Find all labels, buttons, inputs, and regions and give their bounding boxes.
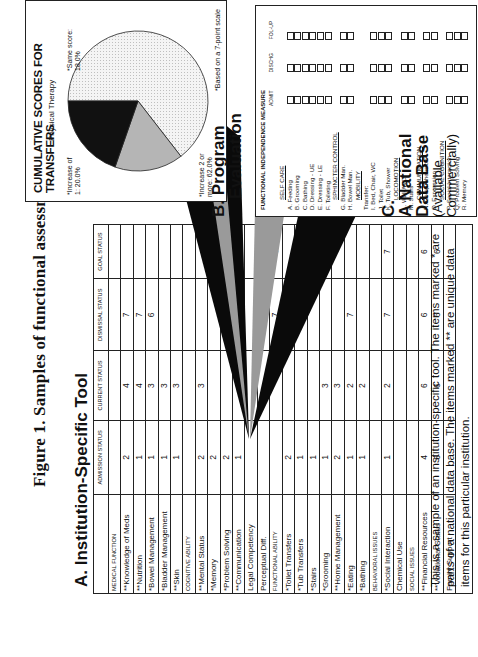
fim-score-box [401,64,408,72]
fim-score-box [302,32,309,40]
fim-item-label: I. Bed, Chair, WC [369,162,376,210]
cell-value: 4 [121,351,133,420]
cell-value [245,351,257,420]
fim-score-box [302,96,309,104]
cell-value [233,351,245,420]
fim-score-box [385,32,392,40]
fim-score-box [325,64,332,72]
fim-score-box [347,32,354,40]
cell-value [133,225,145,279]
pie-footnote: *Based on a 7-point scale [213,9,222,91]
fim-score-box [385,96,392,104]
cell-value [220,279,232,351]
cell-value: 3 [171,351,183,420]
fim-score-box [431,32,438,40]
fim-score-box [294,32,301,40]
table-row: FUNCTIONAL ABILITY76 [270,225,282,594]
column-header: ADMISSION STATUS [94,420,109,494]
table-row: *Toilet Transfers2 [282,225,294,594]
row-label: **Communication [233,495,245,594]
section-b-line2: Evaluation [226,113,245,217]
column-header: DISMISSAL STATUS [94,279,109,351]
cell-value [332,279,344,351]
cell-value [171,279,183,351]
fim-col-admit: ADMIT [268,74,274,106]
pie-chart-card: CUMULATIVE SCORES FOR TRANSFERS Physical… [25,0,227,202]
table-row: **Knowledge of Meds247 [121,225,133,594]
cell-value [282,225,294,279]
row-label: *Stairs [307,495,319,594]
fim-score-box [461,96,468,104]
table-row: *Grooming13 [319,225,331,594]
row-label: **Home Management [332,495,344,594]
cell-value [183,351,195,420]
cell-value [369,279,381,351]
fim-score-box [446,96,453,104]
column-header: GOAL STATUS [94,225,109,279]
fim-score-box [309,96,316,104]
cell-value [357,279,369,351]
cell-value: 1 [146,420,158,494]
cell-value [270,420,282,494]
cell-value [183,279,195,351]
cell-value [344,225,356,279]
row-label: *Toilet Transfers [282,495,294,594]
fim-score-box [309,64,316,72]
fim-item-label: R. Memory [460,180,467,210]
table-row: **Nutrition147 [133,225,145,594]
section-a-title: A. Institution-Specific Tool [72,373,92,587]
cell-value: 6 [146,279,158,351]
fim-section-label: MOBILITY [354,171,361,210]
cell-value: 7 [220,225,232,279]
fim-score-box [340,96,347,104]
cell-value [394,420,406,494]
cell-value [369,225,381,279]
fim-score-box [309,32,316,40]
cell-value [394,225,406,279]
cell-value: 7 [233,279,245,351]
table-row: *Bladder Management13 [158,225,170,594]
cell-value [245,279,257,351]
fim-score-box [287,32,294,40]
cell-value [295,351,307,420]
cell-value: 1 [381,420,393,494]
fim-item-label: E. Dressing - LE [316,165,323,210]
cell-value [270,351,282,420]
table-note: This is a sample of an institution-speci… [425,224,473,594]
cell-value [257,351,269,420]
cell-value: 7 [381,225,393,279]
fim-score-box [287,96,294,104]
cell-value [109,420,121,494]
fim-score-box [431,96,438,104]
fim-item-label: B. Grooming [293,175,300,210]
fim-section-label: SELF CARE [278,166,285,210]
cell-value: 7 [344,279,356,351]
table-row: *Memory27 [208,225,220,594]
institution-tool-table: ADMISSION STATUS CURRENT STATUS DISMISSA… [93,224,456,594]
cell-value: 1 [158,420,170,494]
fim-score-box [378,64,385,72]
fim-score-box [347,64,354,72]
cell-value [220,351,232,420]
fim-score-box [370,96,377,104]
table-row: SOCIAL ISSUES [406,225,418,594]
cell-value: 3 [146,351,158,420]
row-label: *Memory [208,495,220,594]
table-row: Legal Competency [245,225,257,594]
cell-value [282,351,294,420]
cell-value [307,225,319,279]
column-header: CURRENT STATUS [94,351,109,420]
cell-value: 1 [307,420,319,494]
table-row: *Bowel Management136 [146,225,158,594]
cell-value: 3 [319,351,331,420]
table-row: **Mental Status23 [195,225,207,594]
fim-score-box [454,32,461,40]
cell-value: 2 [121,420,133,494]
cell-value: 7 [270,279,282,351]
cell-value [406,279,418,351]
fim-score-box [423,96,430,104]
row-label: Chemical Use [394,495,406,594]
cell-value [332,225,344,279]
table-row: BEHAVIORAL ISSUES [369,225,381,594]
cell-value [195,279,207,351]
